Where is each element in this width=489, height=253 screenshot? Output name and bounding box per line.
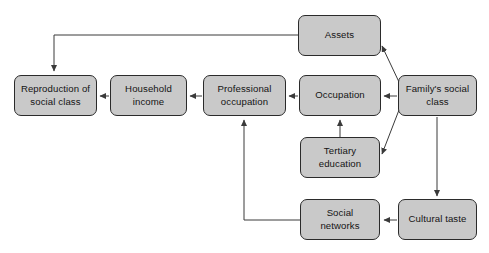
node-social[interactable]: Social networks (300, 199, 380, 240)
edge-family-to-tertiary (382, 110, 399, 154)
node-label-occupation: Occupation (315, 89, 365, 102)
node-label-cultural: Cultural taste (409, 213, 467, 226)
edges-group (54, 35, 437, 220)
node-cultural[interactable]: Cultural taste (398, 199, 477, 240)
node-professional[interactable]: Professional occupation (203, 75, 286, 116)
node-label-reproduction: Reproduction of social class (21, 83, 90, 109)
node-occupation[interactable]: Occupation (299, 75, 381, 116)
node-label-assets: Assets (325, 29, 354, 42)
node-household[interactable]: Household income (110, 75, 187, 116)
node-family[interactable]: Family's social class (398, 75, 477, 116)
edge-social-to-professional (244, 120, 300, 220)
node-assets[interactable]: Assets (298, 15, 381, 56)
edge-assets-to-reproduction (54, 35, 298, 71)
node-label-family: Family's social class (406, 83, 470, 109)
node-tertiary[interactable]: Tertiary education (300, 137, 380, 178)
node-label-social: Social networks (320, 207, 359, 233)
node-reproduction[interactable]: Reproduction of social class (14, 75, 97, 116)
node-label-tertiary: Tertiary education (319, 145, 362, 171)
node-label-professional: Professional occupation (218, 83, 272, 109)
edge-family-to-assets (382, 46, 399, 82)
diagram-canvas: AssetsReproduction of social classHouseh… (0, 0, 489, 253)
node-label-household: Household income (125, 83, 172, 109)
